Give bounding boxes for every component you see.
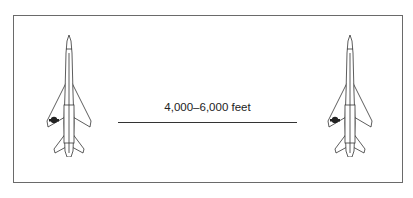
jet-aircraft-right-icon (325, 33, 375, 157)
jet-aircraft-left-icon (44, 33, 94, 157)
distance-line (118, 122, 297, 123)
distance-label: 4,000–6,000 feet (118, 101, 297, 113)
